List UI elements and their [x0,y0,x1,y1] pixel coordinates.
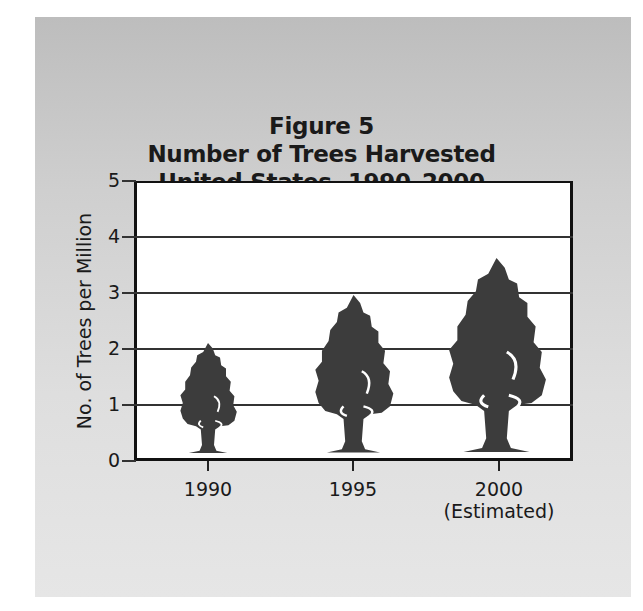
y-tick-label-0: 0 [96,449,120,471]
y-tick-label-4: 4 [96,225,120,247]
tree-icon-1995 [312,295,395,454]
x-tick-label-1995: 1995 [283,478,423,500]
x-tick-label-1990: 1990 [138,478,278,500]
tick-5 [122,180,136,182]
x-tick-label-2000: 2000 [429,478,569,500]
y-tick-label-5: 5 [96,169,120,191]
x-tick-1990 [207,461,209,471]
x-tick-2000 [498,461,500,471]
y-tick-label-3: 3 [96,281,120,303]
y-axis-label: No. of Trees per Million [73,213,95,429]
tree-icon-1990 [178,343,238,454]
tree-icon-2000 [445,258,548,454]
figure-label: Figure 5 [0,113,643,139]
tick-0 [122,460,136,462]
y-tick-label-2: 2 [96,337,120,359]
gridline-4 [122,236,573,238]
y-tick-label-1: 1 [96,393,120,415]
x-tick-1995 [352,461,354,471]
x-tick-sublabel-estimated: (Estimated) [429,500,569,522]
chart-title-line1: Number of Trees Harvested [0,141,643,167]
